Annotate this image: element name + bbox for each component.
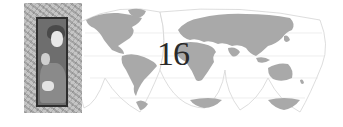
chapter-number: 16 — [157, 37, 189, 71]
mother-child-photo — [36, 17, 68, 107]
chapter-header: 16 — [0, 0, 343, 127]
photo-frame — [24, 3, 82, 113]
photo-highlight — [42, 81, 54, 91]
photo-child-face — [41, 53, 50, 65]
photo-mother-face — [51, 31, 63, 47]
